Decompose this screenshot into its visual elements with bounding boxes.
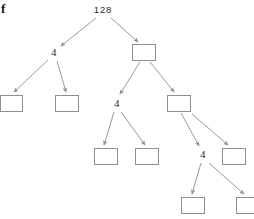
tree-edge-n6-n10 bbox=[192, 114, 228, 145]
figure-label: f bbox=[1, 2, 5, 15]
tree-node-label-n9: 4 bbox=[189, 149, 217, 160]
tree-node-box-n12[interactable] bbox=[236, 197, 254, 214]
tree-node-label-n5: 4 bbox=[103, 98, 131, 109]
figure-canvas: f 128444 bbox=[0, 0, 254, 219]
tree-node-box-n10[interactable] bbox=[222, 148, 246, 165]
tree-node-box-n8[interactable] bbox=[135, 148, 159, 165]
tree-node-box-n2[interactable] bbox=[132, 44, 156, 61]
tree-edge-n9-n11 bbox=[192, 163, 201, 194]
tree-edge-n0-n2 bbox=[111, 18, 138, 42]
tree-edge-n9-n12 bbox=[209, 163, 244, 194]
tree-edge-n2-n5 bbox=[120, 62, 140, 94]
tree-edges-layer bbox=[0, 0, 254, 219]
tree-node-box-n7[interactable] bbox=[94, 148, 118, 165]
tree-edge-n1-n3 bbox=[14, 60, 48, 92]
tree-node-label-n0: 128 bbox=[89, 4, 117, 15]
tree-node-box-n4[interactable] bbox=[55, 95, 79, 112]
tree-edge-n6-n9 bbox=[181, 113, 199, 146]
tree-edge-n0-n1 bbox=[61, 18, 96, 46]
tree-edge-n1-n4 bbox=[57, 61, 66, 92]
tree-edge-n2-n6 bbox=[150, 62, 174, 92]
tree-node-box-n3[interactable] bbox=[0, 95, 23, 112]
tree-node-label-n1: 4 bbox=[40, 47, 68, 58]
tree-edge-n5-n8 bbox=[121, 112, 145, 145]
tree-node-box-n11[interactable] bbox=[181, 197, 205, 214]
tree-edge-n5-n7 bbox=[104, 112, 114, 145]
tree-node-box-n6[interactable] bbox=[167, 95, 191, 112]
